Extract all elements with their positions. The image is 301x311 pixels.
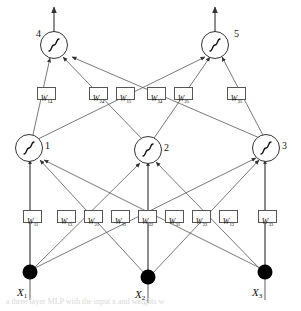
weight-subscript: 33 xyxy=(269,222,274,227)
weight-symbol: W xyxy=(196,217,203,226)
weight-symbol: W xyxy=(88,217,95,226)
figure-caption: a three layer MLP with the input x and w… xyxy=(0,297,301,311)
weight-subscript: 15 xyxy=(127,99,132,104)
weight-subscript: 25 xyxy=(185,99,190,104)
weight-box-w14[interactable]: W14 xyxy=(37,87,56,100)
weight-symbol: W xyxy=(223,217,230,226)
node-number-2: 2 xyxy=(164,142,169,153)
weight-box-w23[interactable]: W23 xyxy=(192,210,211,223)
weight-subscript: 22 xyxy=(149,222,154,227)
weight-subscript: 13 xyxy=(68,222,73,227)
node-number-5: 5 xyxy=(234,28,239,39)
weight-subscript: 31 xyxy=(176,222,181,227)
node-number-1: 1 xyxy=(45,140,50,151)
weight-symbol: W xyxy=(231,94,238,103)
weight-subscript: 34 xyxy=(158,99,163,104)
weight-subscript: 21 xyxy=(95,222,100,227)
weight-subscript: 24 xyxy=(100,99,105,104)
output-arrows-up xyxy=(54,7,215,34)
weight-subscript: 35 xyxy=(238,99,243,104)
weight-subscript: 23 xyxy=(203,222,208,227)
weight-box-w34[interactable]: W34 xyxy=(147,87,166,100)
weight-box-w12[interactable]: W12 xyxy=(219,210,238,223)
weight-box-w31[interactable]: W31 xyxy=(165,210,184,223)
weight-symbol: W xyxy=(151,94,158,103)
node-number-3: 3 xyxy=(282,140,287,151)
neural-network-figure: W11 W13 W21 W11 W22 W31 W23 W12 W33 W14 … xyxy=(0,0,301,311)
weight-subscript: 11 xyxy=(122,222,126,227)
weight-subscript: 12 xyxy=(230,222,235,227)
weight-box-w11b[interactable]: W11 xyxy=(111,210,130,223)
weight-symbol: W xyxy=(115,217,122,226)
weight-symbol: W xyxy=(120,94,127,103)
weight-subscript: 11 xyxy=(34,222,38,227)
hidden-node-circles xyxy=(16,135,280,164)
weight-box-w15[interactable]: W15 xyxy=(116,87,135,100)
weight-subscript: 14 xyxy=(48,99,53,104)
weight-symbol: W xyxy=(262,217,269,226)
weight-box-w24[interactable]: W24 xyxy=(89,87,108,100)
output-node-circles xyxy=(41,32,229,59)
weight-box-w11a[interactable]: W11 xyxy=(23,210,42,223)
weight-symbol: W xyxy=(169,217,176,226)
weight-symbol: W xyxy=(27,217,34,226)
weight-box-w21[interactable]: W21 xyxy=(84,210,103,223)
network-graph-svg xyxy=(0,0,301,311)
weight-box-w25[interactable]: W25 xyxy=(174,87,193,100)
weight-box-w35[interactable]: W35 xyxy=(227,87,246,100)
weight-box-w22[interactable]: W22 xyxy=(138,210,157,223)
weight-symbol: W xyxy=(178,94,185,103)
weight-symbol: W xyxy=(93,94,100,103)
node-number-4: 4 xyxy=(36,28,41,39)
weight-symbol: W xyxy=(41,94,48,103)
weight-box-w33[interactable]: W33 xyxy=(258,210,277,223)
weight-symbol: W xyxy=(142,217,149,226)
weight-symbol: W xyxy=(61,217,68,226)
weight-box-w13[interactable]: W13 xyxy=(57,210,76,223)
